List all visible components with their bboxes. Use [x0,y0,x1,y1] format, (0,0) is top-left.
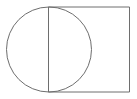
geometric-figure-canvas: circle overlapping rectangle A circle an… [0,0,137,99]
figure-background [0,0,137,99]
